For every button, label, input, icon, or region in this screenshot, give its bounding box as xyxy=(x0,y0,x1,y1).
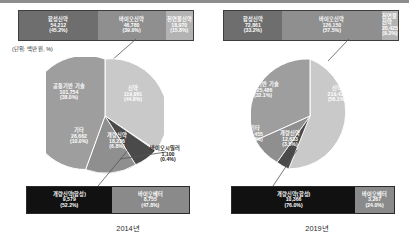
pie-label-new-drug: 신약 219,436 (56.1%) xyxy=(311,86,363,103)
pie-label-common-tech: 공통기반 기술 101,754 (38.0%) xyxy=(38,84,100,101)
top-bar-segment-bio: 바이오신약 126,150 (57.5%) xyxy=(282,11,382,40)
bottom-stacked-bar: 개량신약(합성) 10,366 (76.0%) 바이오베터 3,267 (24.… xyxy=(231,186,395,214)
chart-panel-2014: 합성신약 54,212 (45.2%) 바이오신약 46,780 (39.0%)… xyxy=(0,0,204,243)
top-stacked-bar: 합성신약 72,861 (33.2%) 바이오신약 126,150 (57.5%… xyxy=(223,10,399,41)
pie-label-etc: 기타 26,662 (10.0%) xyxy=(58,128,100,145)
segment-percent: (24.0%) xyxy=(365,203,383,209)
leader-line-bottom xyxy=(96,150,130,188)
segment-percent: (9.3%) xyxy=(382,31,397,37)
leader-line-bottom xyxy=(271,150,301,188)
top-bar-segment-natural: 천연물신약 20,425 (9.3%) xyxy=(382,11,398,40)
main-pie-chart xyxy=(251,57,369,175)
bottom-stacked-bar: 개량신약(합성) 9,579 (52.2%) 바이오베터 8,755 (47.8… xyxy=(26,186,190,214)
chart-panel-2019: 합성신약 72,861 (33.2%) 바이오신약 126,150 (57.5%… xyxy=(205,0,409,243)
top-bar-segment-bio: 바이오신약 46,780 (39.0%) xyxy=(98,11,166,40)
pie-label-new-drug: 신약 119,961 (44.8%) xyxy=(108,86,158,103)
segment-percent: (15.8%) xyxy=(170,28,188,34)
bottom-bar-segment-biobetter: 바이오베터 8,755 (47.8%) xyxy=(112,187,189,213)
top-stacked-bar: 합성신약 54,212 (45.2%) 바이오신약 46,780 (39.0%)… xyxy=(18,10,194,41)
segment-percent: (57.5%) xyxy=(323,28,341,34)
segment-percent: (33.2%) xyxy=(244,28,262,34)
segment-percent: (45.2%) xyxy=(49,28,67,34)
bottom-bar-segment-incremental-synthetic: 개량신약(합성) 9,579 (52.2%) xyxy=(27,187,112,213)
bottom-bar-segment-biobetter: 바이오베터 3,267 (24.0%) xyxy=(355,187,394,213)
year-label-2019: 2019년 xyxy=(205,222,409,233)
top-bar-segment-synthetic: 합성신약 72,861 (33.2%) xyxy=(224,11,282,40)
segment-name: 천연물신약 xyxy=(382,14,398,25)
pie-label-biosimilar: 바이오시밀러 1,100 (0.4%) xyxy=(150,146,202,163)
segment-percent: (52.2%) xyxy=(60,203,78,209)
pie-label-common-tech: 공통기반 기술 125,486 (32.1%) xyxy=(231,82,295,99)
segment-percent: (76.0%) xyxy=(284,203,302,209)
top-bar-segment-synthetic: 합성신약 54,212 (45.2%) xyxy=(19,11,98,40)
top-bar-segment-natural: 천연물신약 18,970 (15.8%) xyxy=(166,11,193,40)
pie-label-incremental: 개량신약 12,633 (3.5%) xyxy=(269,131,311,148)
year-label-2014: 2014년 xyxy=(0,222,230,233)
unit-note: (단위: 백만 원, %) xyxy=(12,45,53,53)
segment-percent: (47.8%) xyxy=(141,203,159,209)
segment-percent: (39.0%) xyxy=(122,28,140,34)
bottom-bar-segment-incremental-synthetic: 개량신약(합성) 10,366 (76.0%) xyxy=(232,187,355,213)
